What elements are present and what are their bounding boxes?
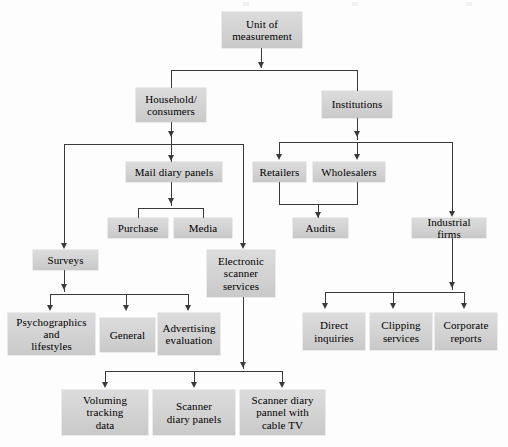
edge-voluming-arrow: [102, 382, 108, 388]
edge-root-bus: [171, 70, 357, 71]
edge-maildiary-to-media: [203, 208, 204, 218]
edge-advertising-arrow: [185, 305, 191, 311]
node-label: Purchase: [111, 222, 165, 234]
edge-retailers-arrow: [276, 154, 282, 160]
edge-escanner-arrow: [240, 243, 246, 249]
edge-industrial-stem-arrow: [449, 282, 455, 288]
node-wholesalers[interactable]: Wholesalers: [313, 162, 385, 182]
edge-household-to-escanner: [243, 144, 244, 244]
node-advertising-evaluation[interactable]: Advertisingevaluation: [158, 313, 220, 355]
edge-institutions-bus: [279, 142, 452, 143]
edge-wholesalers-down: [357, 182, 358, 204]
scan-artifact: [352, 2, 358, 6]
node-institutions[interactable]: Institutions: [322, 91, 392, 118]
node-label: Corporatereports: [438, 319, 494, 344]
node-label: Retailers: [256, 166, 303, 178]
edge-root-to-household: [171, 70, 172, 88]
node-clipping-services[interactable]: Clippingservices: [370, 313, 432, 350]
edge-maildiary-stem-arrow: [168, 198, 174, 204]
flowchart-canvas: Unit ofmeasurement Household/consumers I…: [0, 0, 508, 447]
node-scanner-diary-pannel-with-cable-tv[interactable]: Scanner diarypannel withcable TV: [240, 390, 325, 435]
node-audits[interactable]: Audits: [293, 218, 348, 238]
edge-clipping-arrow: [390, 303, 396, 309]
edge-industrial-bus: [325, 292, 464, 293]
node-label: Electronicscannerservices: [210, 255, 272, 292]
node-label: Institutions: [325, 98, 389, 110]
edge-scannercable-arrow: [279, 382, 285, 388]
node-voluming-tracking-data[interactable]: Volumingtrackingdata: [62, 390, 148, 435]
node-scanner-diary-panels[interactable]: Scannerdiary panels: [153, 390, 235, 435]
edge-wholesalers-arrow: [354, 154, 360, 160]
scan-artifact: [466, 2, 472, 6]
edge-psycho-arrow: [47, 305, 53, 311]
edge-surveys-arrow: [61, 243, 67, 249]
edge-direct-arrow: [322, 303, 328, 309]
node-mail-diary-panels[interactable]: Mail diary panels: [126, 162, 222, 182]
node-label: Advertisingevaluation: [161, 322, 217, 347]
node-psychographics-and-lifestyles[interactable]: Psychographicsandlifestyles: [8, 313, 95, 355]
node-retailers[interactable]: Retailers: [253, 162, 306, 182]
node-media[interactable]: Media: [174, 218, 232, 238]
edge-household-bus: [64, 144, 244, 145]
edge-maildiary-bus: [138, 208, 203, 209]
edge-surveys-stem-arrow: [61, 284, 67, 290]
node-label: Unit ofmeasurement: [225, 18, 299, 43]
node-label: Mail diary panels: [129, 166, 219, 178]
node-label: Clippingservices: [373, 319, 429, 344]
edge-general-arrow: [123, 305, 129, 311]
node-label: Household/consumers: [139, 93, 203, 118]
node-purchase[interactable]: Purchase: [108, 218, 168, 238]
edge-maildiary-arrow: [168, 155, 174, 161]
edge-escanner-stem-arrow: [240, 362, 246, 368]
edge-household-arrow: [168, 131, 174, 137]
node-label: Scanner diarypannel withcable TV: [243, 394, 322, 431]
edge-corporate-arrow: [461, 303, 467, 309]
node-label: Industrial firms: [415, 216, 483, 241]
node-label: Media: [177, 222, 229, 234]
node-unit-of-measurement[interactable]: Unit ofmeasurement: [222, 12, 302, 48]
edge-retailers-down: [279, 182, 280, 204]
node-industrial-firms[interactable]: Industrial firms: [412, 218, 486, 238]
node-label: Scannerdiary panels: [156, 400, 232, 425]
edge-root-arrow: [258, 62, 264, 68]
scan-artifact: [243, 2, 249, 6]
node-corporate-reports[interactable]: Corporatereports: [435, 313, 497, 350]
edge-escanner-stem: [243, 297, 244, 369]
edge-surveys-bus: [50, 294, 188, 295]
edge-household-to-surveys: [64, 144, 65, 244]
edge-institutions-to-industrial: [452, 142, 453, 212]
node-direct-inquiries[interactable]: Directinquiries: [303, 313, 365, 350]
node-label: Volumingtrackingdata: [65, 394, 145, 431]
node-surveys[interactable]: Surveys: [33, 250, 98, 270]
node-label: Audits: [296, 222, 345, 234]
edge-root-to-institutions: [357, 70, 358, 91]
node-electronic-scanner-services[interactable]: Electronicscannerservices: [207, 250, 275, 297]
edge-scannerdiary-arrow: [191, 382, 197, 388]
node-general[interactable]: General: [100, 318, 155, 352]
node-label: Psychographicsandlifestyles: [11, 316, 92, 353]
node-label: Directinquiries: [306, 319, 362, 344]
node-label: General: [103, 329, 152, 341]
edge-maildiary-to-purchase: [138, 208, 139, 218]
edge-institutions-arrow: [354, 131, 360, 137]
node-household-consumers[interactable]: Household/consumers: [136, 88, 206, 122]
node-label: Surveys: [36, 254, 95, 266]
node-label: Wholesalers: [316, 166, 382, 178]
